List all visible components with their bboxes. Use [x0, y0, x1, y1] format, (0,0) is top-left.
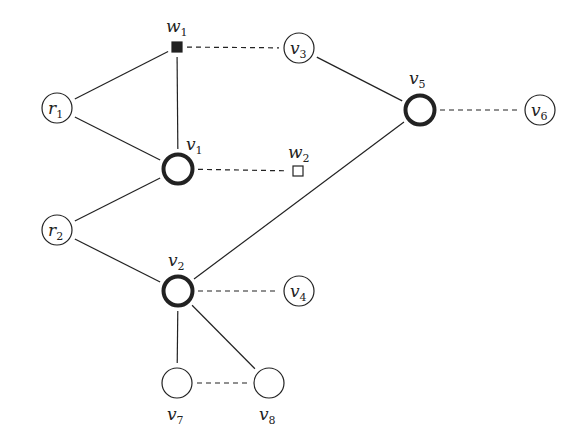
node-label-v7: v7: [167, 404, 184, 427]
edge-r2-v2: [75, 239, 160, 282]
edge-v1-w2: [198, 169, 288, 171]
edge-v1-r2: [75, 178, 160, 221]
edge-v3-v5: [317, 57, 402, 101]
node-label-w2: w2: [288, 142, 310, 165]
node-v2: [164, 277, 193, 306]
edge-v2-v7: [177, 311, 178, 363]
node-v5: [406, 96, 435, 125]
graph-diagram: w1v3r1v5v6v1w2r2v2v4v7v8: [0, 0, 579, 447]
node-v8: [254, 368, 284, 398]
graph-labels: w1v3r1v5v6v1w2r2v2v4v7v8: [48, 16, 548, 427]
edge-w1-v3: [187, 47, 279, 48]
node-v7: [162, 368, 192, 398]
graph-edges: [75, 47, 520, 383]
edge-v2-v8: [192, 305, 255, 369]
node-w2: [293, 166, 303, 176]
edge-w1-v1: [177, 57, 178, 149]
node-v1: [164, 155, 193, 184]
node-label-v1: v1: [186, 134, 203, 157]
node-label-v8: v8: [259, 404, 276, 427]
node-label-v2: v2: [168, 250, 185, 273]
graph-nodes: [42, 33, 555, 398]
node-label-w1: w1: [166, 16, 188, 39]
node-label-v5: v5: [409, 68, 426, 91]
edge-w1-r1: [75, 52, 168, 99]
edge-r1-v1: [75, 117, 160, 160]
node-w1: [172, 42, 182, 52]
